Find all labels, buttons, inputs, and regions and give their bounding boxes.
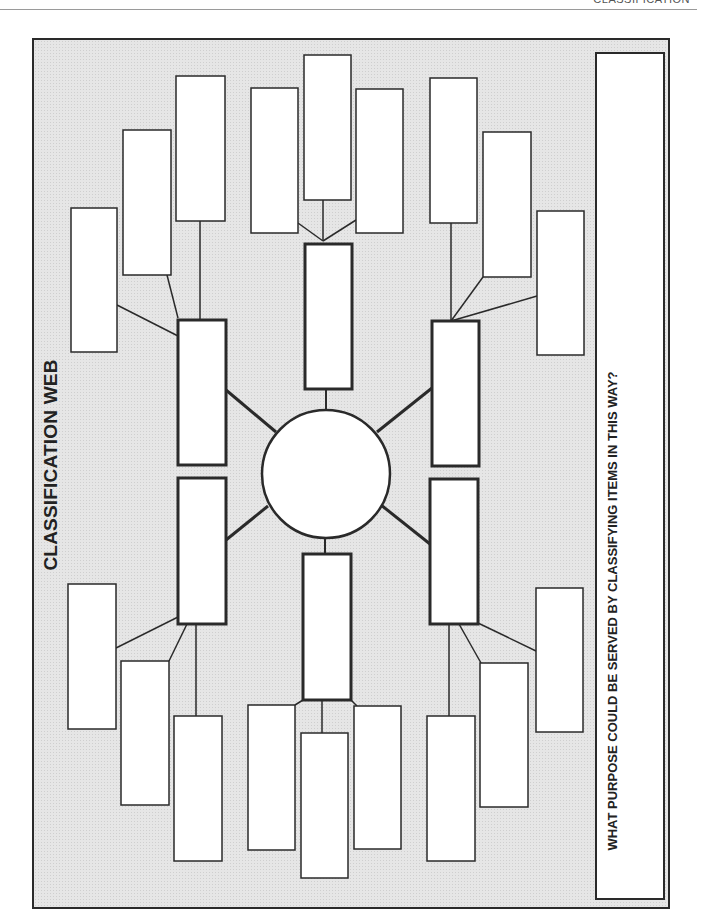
item-box-upper-right[interactable] [483, 132, 531, 277]
item-box-bottom[interactable] [354, 706, 401, 849]
spoke-line [226, 506, 268, 540]
branch-line [117, 305, 178, 336]
branch-line [169, 624, 187, 661]
item-box-lower-left[interactable] [121, 661, 169, 805]
center-topic-circle[interactable] [262, 410, 390, 538]
category-box-top[interactable] [305, 244, 352, 389]
item-box-top[interactable] [304, 55, 351, 200]
spoke-line [226, 390, 276, 432]
branch-line [116, 617, 178, 648]
spoke-line [377, 388, 432, 432]
branch-line [459, 624, 481, 663]
item-box-lower-left[interactable] [174, 716, 222, 861]
item-box-upper-left[interactable] [71, 208, 117, 352]
item-box-lower-left[interactable] [68, 584, 116, 729]
branch-line [323, 220, 356, 241]
item-box-upper-right[interactable] [537, 211, 584, 355]
page-title: CLASSIFICATION WEB [40, 359, 62, 570]
item-box-upper-right[interactable] [430, 78, 477, 223]
item-box-bottom[interactable] [248, 705, 295, 850]
item-box-lower-right[interactable] [480, 663, 528, 807]
item-box-bottom[interactable] [301, 733, 348, 878]
item-box-lower-right[interactable] [427, 716, 475, 861]
category-box-lower-left[interactable] [178, 478, 226, 624]
branch-line [451, 296, 537, 321]
item-box-top[interactable] [251, 88, 298, 233]
purpose-question: WHAT PURPOSE COULD BE SERVED BY CLASSIFY… [605, 371, 620, 850]
item-box-upper-left[interactable] [123, 130, 171, 275]
item-box-lower-right[interactable] [536, 588, 583, 732]
category-box-upper-left[interactable] [178, 320, 226, 465]
item-box-top[interactable] [356, 89, 403, 233]
branch-line [298, 223, 323, 241]
branch-line [478, 623, 536, 651]
branch-line [451, 277, 483, 321]
item-box-upper-left[interactable] [176, 76, 225, 221]
category-box-bottom[interactable] [303, 554, 351, 700]
purpose-answer-field[interactable] [628, 56, 662, 896]
branch-line [167, 275, 178, 318]
category-box-upper-right[interactable] [432, 321, 479, 466]
category-box-lower-right[interactable] [430, 479, 478, 624]
spoke-line [381, 505, 430, 544]
